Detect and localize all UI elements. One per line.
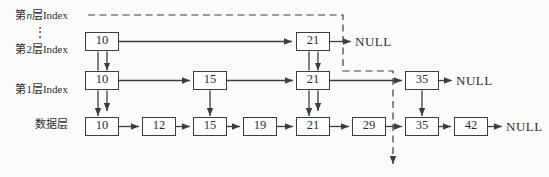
level1-node-15: 15 <box>193 71 227 90</box>
data-node-15: 15 <box>193 117 227 136</box>
label-level-1: 第1层Index <box>15 84 68 95</box>
data-node-42: 42 <box>454 117 488 136</box>
level2-node-21: 21 <box>296 32 330 51</box>
level2-node-10: 10 <box>85 32 119 51</box>
level2-null: NULL <box>355 35 392 48</box>
label-data-layer: 数据层 <box>35 119 68 130</box>
level-n-dashed-link <box>88 15 393 164</box>
data-node-29: 29 <box>352 117 386 136</box>
connector-wires <box>0 0 549 177</box>
data-null: NULL <box>506 120 543 133</box>
vertical-ellipsis: ⋮ <box>34 26 46 38</box>
level1-node-10: 10 <box>85 71 119 90</box>
label-level-n: 第n层Index <box>15 10 68 21</box>
level1-node-35: 35 <box>405 71 439 90</box>
label-level-2: 第2层Index <box>15 44 68 55</box>
data-node-19: 19 <box>243 117 277 136</box>
level1-null: NULL <box>456 74 493 87</box>
data-node-21: 21 <box>296 117 330 136</box>
down-links <box>98 52 422 117</box>
level1-node-21: 21 <box>296 71 330 90</box>
data-node-10: 10 <box>85 117 119 136</box>
data-node-35: 35 <box>405 117 439 136</box>
skip-list-diagram: 第n层Index ⋮ 第2层Index 第1层Index 数据层 10 21 N… <box>0 0 549 177</box>
data-node-12: 12 <box>142 117 176 136</box>
label-level-n-prefix: 第 <box>15 9 26 21</box>
label-level-n-suffix: 层Index <box>32 9 68 21</box>
